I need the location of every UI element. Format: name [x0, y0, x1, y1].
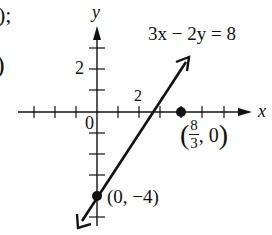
- y-axis-arrow-icon: [93, 26, 101, 40]
- equation-text: 3x − 2y = 8: [148, 23, 236, 44]
- point-y-intercept: [92, 191, 102, 201]
- x-tick-label-2: 2: [134, 88, 142, 104]
- x-axis-label: x: [258, 102, 266, 120]
- point-x-intercept: [176, 107, 186, 117]
- origin-label: 0: [85, 114, 94, 132]
- fraction: 83: [189, 118, 199, 151]
- point-label-y-intercept: (0, −4): [107, 187, 159, 206]
- point-label-x-intercept: (83, 0): [180, 118, 228, 151]
- y-axis-label: y: [92, 3, 100, 21]
- y-tick-label-2: 2: [75, 59, 84, 77]
- x-axis-arrow-icon: [238, 108, 252, 116]
- equation-label: 3x − 2y = 8: [148, 24, 236, 43]
